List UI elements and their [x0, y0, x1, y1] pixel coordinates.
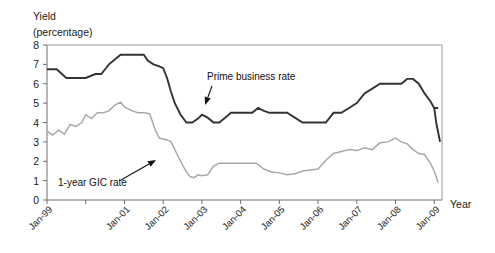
- y-tick-label: 4: [33, 117, 39, 129]
- y-tick-label: 8: [33, 39, 39, 51]
- y-tick-label: 1: [33, 175, 39, 187]
- x-tick-label: Jan-06: [297, 204, 325, 232]
- x-tick-label: Jan-99: [26, 204, 54, 232]
- x-tick-label: Jan-02: [142, 204, 170, 232]
- y-tick-label: 5: [33, 97, 39, 109]
- y-axis-title-line1: Yield: [33, 10, 56, 22]
- y-tick-label: 6: [33, 78, 39, 90]
- y-tick-label: 0: [33, 194, 39, 206]
- y-tick-label: 2: [33, 155, 39, 167]
- x-tick-label: Jan-08: [375, 204, 403, 232]
- y-axis-ticks: [43, 45, 47, 200]
- x-tick-label: Jan-07: [336, 204, 364, 232]
- x-tick-label: Jan-03: [181, 204, 209, 232]
- x-tick-label: Jan-04: [220, 204, 248, 232]
- x-axis-ticks-and-labels: Jan-99Jan-01Jan-02Jan-03Jan-04Jan-05Jan-…: [26, 200, 442, 232]
- x-tick-label: Jan-05: [258, 204, 286, 232]
- y-axis-title-line2: (percentage): [33, 26, 93, 38]
- x-axis-title: Year: [450, 198, 472, 210]
- chart-figure: 8 7 6 5 4 3 2 1 0 Yield (percentage) Jan…: [0, 0, 495, 253]
- y-tick-label: 3: [33, 136, 39, 148]
- annotation-label-prime-business-rate: Prime business rate: [207, 71, 296, 82]
- x-tick-label: Jan-01: [104, 204, 132, 232]
- yield-line-chart: 8 7 6 5 4 3 2 1 0 Yield (percentage) Jan…: [0, 0, 495, 253]
- y-axis-tick-labels: 8 7 6 5 4 3 2 1 0: [33, 39, 39, 206]
- annotation-label-1-year-gic-rate: 1-year GIC rate: [58, 177, 127, 188]
- x-tick-label: Jan-09: [413, 204, 441, 232]
- y-tick-label: 7: [33, 58, 39, 70]
